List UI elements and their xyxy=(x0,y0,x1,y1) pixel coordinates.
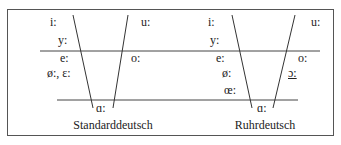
vowel-o: o: xyxy=(131,52,140,64)
vowel-i: i: xyxy=(208,16,215,28)
vowel-o: o: xyxy=(298,52,307,64)
vowel-open-o: ɔ: xyxy=(288,67,297,79)
vowel-y: y: xyxy=(58,34,67,46)
caption-ruhrdeutsch: Ruhrdeutsch xyxy=(235,119,296,131)
standard-front-slant-line xyxy=(73,15,93,108)
standard-back-slant-line xyxy=(113,15,128,108)
vowel-oe: ø: xyxy=(222,67,231,79)
vowel-e: e: xyxy=(216,52,225,64)
caption-standarddeutsch: Standarddeutsch xyxy=(73,119,152,131)
vowel-u: u: xyxy=(141,16,150,28)
ruhr-back-slant-line xyxy=(273,15,295,108)
vowel-u: u: xyxy=(311,16,320,28)
vowel-oe-eps: ø:, ɛ: xyxy=(47,67,71,79)
vowel-oe-ligature: œ: xyxy=(224,84,236,96)
vowel-y: y: xyxy=(210,34,219,46)
vowel-e: e: xyxy=(60,52,69,64)
vowel-a: ɑ: xyxy=(96,102,106,114)
vowel-i: i: xyxy=(50,16,57,28)
vowel-a: ɑ: xyxy=(257,102,267,114)
